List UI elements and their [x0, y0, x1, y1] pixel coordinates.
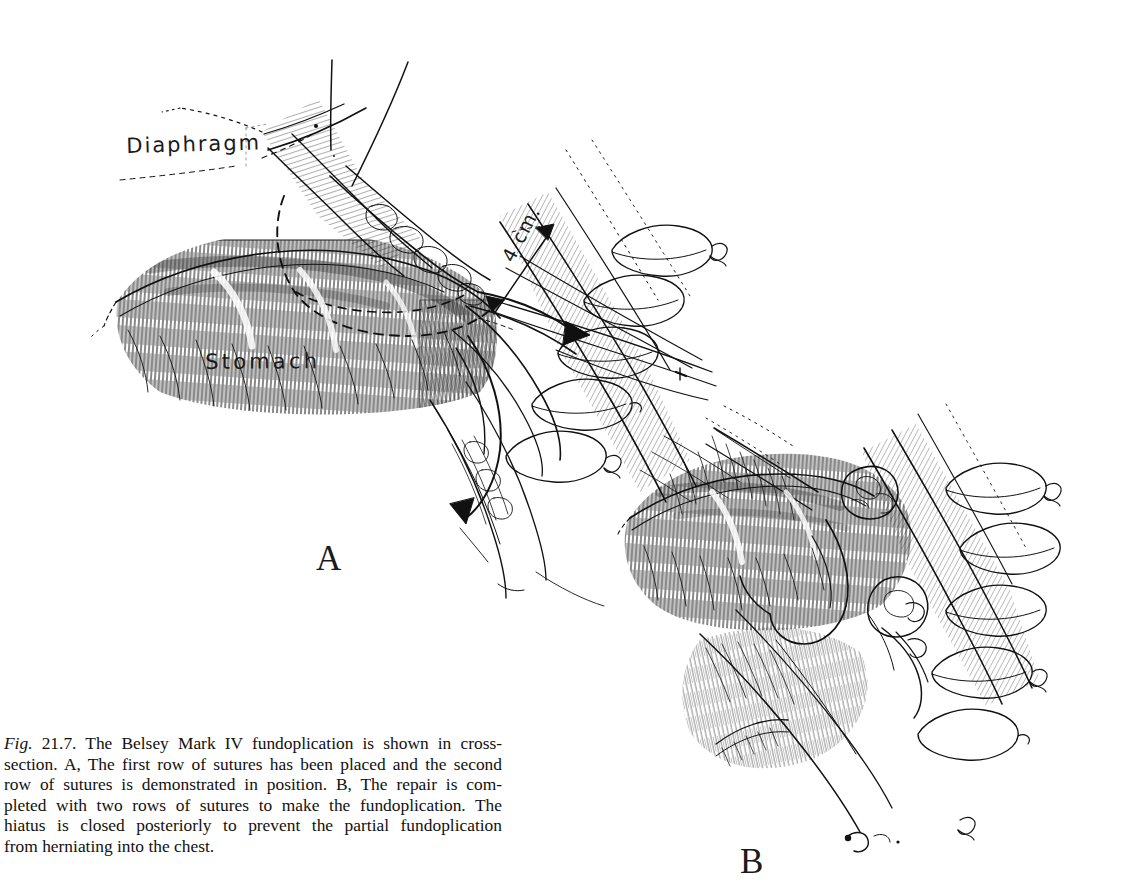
caption-line-1-text: The Belsey Mark IV fundoplication is sho…: [85, 733, 502, 753]
label-stomach: Stomach: [205, 349, 320, 374]
label-diaphragm: Diaphragm: [126, 130, 261, 158]
caption-fig-word: Fig.: [4, 733, 33, 753]
panel-letter-a: A: [316, 541, 341, 576]
caption-line-3: row of sutures is demonstrated in positi…: [4, 774, 502, 795]
figure-caption: Fig. 21.7. The Belsey Mark IV fundoplica…: [4, 733, 502, 857]
caption-line-5: hiatus is closed posteriorly to prevent …: [4, 815, 502, 836]
caption-line-6: from herniating into the chest.: [4, 836, 502, 857]
panel-letter-b: B: [740, 844, 763, 879]
label-measurement-4cm: 4 cm.: [497, 202, 545, 265]
caption-line-2: section. A, The first row of sutures has…: [4, 754, 502, 775]
caption-line-1: Fig. 21.7. The Belsey Mark IV fundoplica…: [4, 733, 502, 754]
caption-line-4: pleted with two rows of sutures to make …: [4, 795, 502, 816]
figure-21-7: Diaphragm Stomach 4 cm. A B Fig. 21.7. T…: [0, 0, 1127, 896]
caption-number: 21.7.: [42, 733, 77, 753]
